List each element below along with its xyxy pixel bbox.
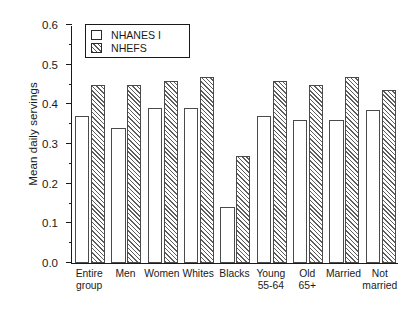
white-square-icon: [91, 30, 102, 40]
bar-nhanes-i: [329, 120, 343, 263]
legend-label-nhefs: NHEFS: [111, 42, 147, 54]
y-axis-tick-label: 0.0: [42, 257, 58, 269]
bar-group: [217, 26, 253, 263]
y-axis-tick-label: 0.1: [42, 217, 58, 229]
legend-entry-nhefs: NHEFS: [91, 42, 185, 56]
x-axis-label-line: 65+: [281, 280, 333, 292]
bar-group: [108, 26, 144, 263]
bar-nhanes-i: [257, 116, 271, 263]
bar-nhanes-i: [220, 207, 234, 263]
bar-group: [254, 26, 290, 263]
bar-group: [145, 26, 181, 263]
bar-nhanes-i: [366, 110, 380, 263]
bar-group: [326, 26, 362, 263]
bar-group: [290, 26, 326, 263]
bar-nhefs: [127, 85, 141, 264]
bar-group: [363, 26, 399, 263]
bars-layer: [72, 26, 398, 263]
bar-nhefs: [164, 81, 178, 263]
bar-nhanes-i: [184, 108, 198, 263]
bar-group: [181, 26, 217, 263]
bar-nhefs: [273, 81, 287, 263]
y-axis-tick-label: 0.6: [42, 19, 58, 31]
y-axis-tick-label: 0.2: [42, 178, 58, 190]
hatched-square-icon: [91, 43, 102, 53]
bar-nhefs: [382, 90, 396, 263]
bar-nhefs: [309, 85, 323, 264]
plot-area: 0.00.10.20.30.40.50.6: [71, 26, 398, 264]
x-axis-label-line: married: [354, 280, 406, 292]
bar-nhanes-i: [293, 120, 307, 263]
y-axis-tick-label: 0.4: [42, 98, 58, 110]
legend-entry-nhanes-i: NHANES I: [91, 28, 185, 42]
y-axis-title: Mean daily servings: [27, 39, 39, 229]
x-axis-label-line: group: [63, 280, 115, 292]
bar-nhefs: [91, 85, 105, 264]
bar-nhanes-i: [111, 128, 125, 263]
x-axis-label-line: Not: [354, 268, 406, 280]
bar-nhanes-i: [75, 116, 89, 263]
legend: NHANES I NHEFS: [85, 24, 190, 58]
bar-nhefs: [236, 156, 250, 263]
legend-label-nhanes-i: NHANES I: [111, 29, 161, 41]
bar-group: [72, 26, 108, 263]
bar-nhefs: [345, 77, 359, 263]
y-axis-tick-label: 0.5: [42, 59, 58, 71]
bar-nhefs: [200, 77, 214, 263]
bar-chart: Mean daily servings 0.00.10.20.30.40.50.…: [0, 0, 410, 309]
y-axis-tick: 0.6: [66, 24, 72, 25]
y-axis-tick-label: 0.3: [42, 138, 58, 150]
bar-nhanes-i: [148, 108, 162, 263]
x-axis-label: Notmarried: [354, 268, 406, 293]
